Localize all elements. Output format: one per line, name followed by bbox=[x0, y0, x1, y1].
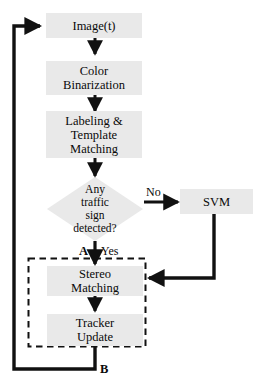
node-svm: SVM bbox=[180, 189, 253, 214]
edge-svm-to-stereo bbox=[149, 214, 214, 278]
node-stereo-matching-line-1: Matching bbox=[71, 281, 119, 295]
flowchart-diagram: Image(t) Color Binarization Labeling & T… bbox=[0, 0, 261, 391]
node-color-binarization-line-0: Color bbox=[80, 64, 108, 78]
node-labeling-line-0: Labeling & bbox=[65, 114, 122, 128]
node-tracker-update: Tracker Update bbox=[47, 314, 143, 346]
node-svm-line-0: SVM bbox=[203, 195, 230, 209]
edge-label-no: No bbox=[146, 185, 161, 200]
node-labeling-line-1: Template bbox=[71, 128, 117, 142]
node-image-line-0: Image(t) bbox=[72, 19, 115, 33]
decision-diamond-shape bbox=[47, 177, 143, 241]
node-labeling-template-matching: Labeling & Template Matching bbox=[46, 111, 142, 158]
node-color-binarization-line-1: Binarization bbox=[63, 78, 125, 92]
node-tracker-update-line-1: Update bbox=[77, 330, 113, 344]
node-labeling-line-2: Matching bbox=[70, 142, 118, 156]
edge-label-yes: Yes bbox=[101, 244, 118, 259]
node-image: Image(t) bbox=[46, 13, 142, 38]
node-color-binarization: Color Binarization bbox=[46, 61, 142, 95]
node-stereo-matching-line-0: Stereo bbox=[79, 267, 111, 281]
node-stereo-matching: Stereo Matching bbox=[47, 266, 143, 296]
connector-label-a: A bbox=[79, 244, 88, 259]
node-tracker-update-line-0: Tracker bbox=[76, 316, 114, 330]
connector-label-b: B bbox=[100, 362, 108, 377]
